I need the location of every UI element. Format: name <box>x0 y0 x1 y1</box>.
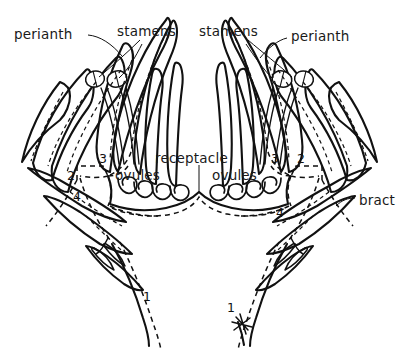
label-bract: bract <box>359 192 395 208</box>
label-stamens-left: stamens <box>117 23 176 39</box>
number-right-2: 2 <box>297 151 305 166</box>
leader-perianth-right <box>260 38 287 58</box>
floral-diagram-figure: perianth stamens stamens perianth recept… <box>0 0 399 351</box>
diagram-canvas: perianth stamens stamens perianth recept… <box>0 0 399 351</box>
label-ovules-left: ovules <box>115 167 160 183</box>
number-left-4: 4 <box>73 189 81 204</box>
label-perianth-left: perianth <box>14 26 72 42</box>
ovule <box>210 185 229 201</box>
label-perianth-right: perianth <box>291 28 349 44</box>
left-vascular-traces <box>31 32 167 256</box>
number-left-2: 2 <box>67 168 75 183</box>
ovule <box>152 184 171 200</box>
ovule <box>228 184 247 200</box>
label-ovules-right: ovules <box>212 167 257 183</box>
number-right-3: 3 <box>271 151 279 166</box>
basal-scar-mark <box>232 314 252 345</box>
ovule <box>170 185 189 201</box>
number-right-4: 4 <box>276 205 284 220</box>
number-right-1: 1 <box>227 300 235 315</box>
label-receptacle: receptacle <box>155 150 228 166</box>
number-left-3: 3 <box>99 151 107 166</box>
number-left-1: 1 <box>143 289 151 304</box>
right-vascular-traces <box>232 32 368 256</box>
label-stamens-right: stamens <box>199 23 258 39</box>
